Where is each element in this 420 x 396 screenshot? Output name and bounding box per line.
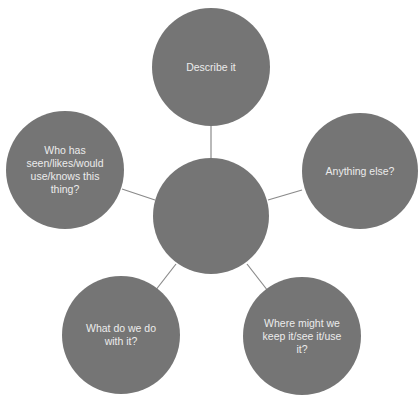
node-anything-else: Anything else? (302, 113, 418, 229)
connector-bottom-left (155, 264, 176, 291)
node-what-do-we-do: What do we do with it? (62, 276, 180, 394)
connector-left (122, 189, 155, 200)
node-label-describe-it: Describe it (186, 61, 236, 74)
node-describe-it: Describe it (152, 8, 270, 126)
node-where-might-we-keep: Where might we keep it/see it/use it? (243, 277, 361, 395)
node-who-has-seen: Who has seen/likes/would use/knows this … (6, 111, 124, 229)
node-label-where-might-we-keep: Where might we keep it/see it/use it? (263, 317, 342, 356)
node-label-what-do-we-do: What do we do with it? (86, 322, 156, 348)
connector-right (268, 190, 302, 200)
node-label-anything-else: Anything else? (326, 165, 395, 178)
center-node (153, 158, 269, 274)
node-label-who-has-seen: Who has seen/likes/would use/knows this … (26, 144, 103, 196)
connector-bottom-right (247, 264, 268, 291)
mind-map-diagram: Describe it Who has seen/likes/would use… (0, 0, 420, 396)
